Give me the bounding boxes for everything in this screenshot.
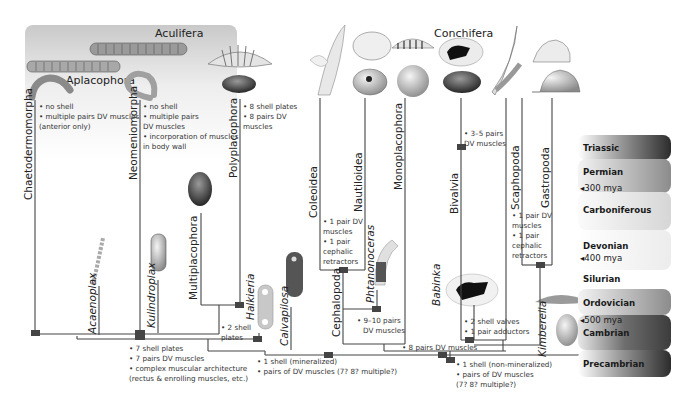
note-line: cephalic — [323, 247, 353, 256]
note-line: retractors — [512, 251, 548, 260]
taxon-label: Babinka — [430, 264, 442, 306]
taxon-label: Nautiloidea — [352, 152, 364, 212]
note-line: DV muscles — [143, 122, 185, 131]
taxon-label: Chaetodermomorpha — [22, 88, 34, 200]
period-label: Devonian — [583, 241, 628, 251]
note-line: • 1 pair adductors — [464, 327, 530, 336]
note-line: • 1 pair DV — [512, 211, 552, 220]
note-line: • 8 pairs DV — [243, 112, 287, 121]
node-marker — [31, 330, 40, 336]
note-line: • 1 shell (mineralized) — [257, 357, 337, 366]
note-line: • no shell — [39, 102, 73, 111]
taxon-label: Gastropoda — [539, 147, 551, 208]
period-label: Ordovician — [583, 298, 635, 308]
node-marker — [372, 306, 381, 312]
period-label: Triassic — [583, 143, 619, 153]
group-label-aculifera: Aculifera — [155, 27, 203, 40]
note-line: • complex muscular architecture — [129, 364, 248, 373]
mollusc-phylogeny-diagram: Aculifera Aplacophora Conchifera — [0, 0, 674, 403]
taxon-label: Kimberella — [536, 301, 548, 357]
note-line: • pairs of DV muscles (7? 8? multiple?) — [257, 367, 397, 376]
note-line: cephalic — [512, 241, 542, 250]
note-line: (7? 8? multiple?) — [456, 380, 516, 389]
worm-illustration — [27, 61, 120, 72]
note-line: • 1 pair DV — [323, 217, 363, 226]
note-line: muscles — [323, 227, 353, 236]
note-line: • multiple pairs — [143, 112, 199, 121]
taxon-label: Acaenoplax — [86, 272, 98, 335]
note-line: • no shell — [143, 102, 177, 111]
taxon-label: Cephalopoda — [330, 268, 342, 337]
note-line: (rectus & enrolling muscles, etc.) — [129, 374, 248, 383]
note-line: • 2 shell — [221, 323, 251, 332]
node-marker — [438, 352, 447, 358]
period-label: Silurian — [583, 274, 620, 284]
note-line: • 8 shell plates — [243, 102, 298, 111]
period-label: Permian — [583, 167, 623, 177]
note-line: • 2 shell valves — [464, 317, 520, 326]
worm-illustration — [90, 43, 187, 55]
note-line: • 8 pairs DV muscles — [402, 343, 478, 352]
note-line: (anterior only) — [39, 122, 91, 131]
period-label: Carboniferous — [583, 205, 651, 215]
mya-marker: ◂400 mya — [580, 253, 622, 263]
note-line: DV muscles — [363, 326, 405, 335]
taxon-label: Bivalvia — [448, 173, 460, 214]
mya-marker: ◂300 mya — [580, 183, 622, 193]
taxon-label: Kulindroplax — [145, 262, 157, 328]
taxon-label: Halkieria — [244, 274, 256, 320]
taxon-label: Coleoidea — [307, 166, 319, 218]
geologic-timescale: Triassic Permian ◂300 mya Carboniferous … — [578, 135, 671, 377]
period-label: Cambrian — [583, 328, 629, 338]
note-line: plates — [221, 333, 243, 342]
mya-marker: ◂500 mya — [580, 315, 622, 325]
note-line: • 1 pair — [323, 237, 350, 246]
note-line: • pairs of DV muscles — [456, 370, 534, 379]
taxon-label: Monoplacophora — [392, 103, 404, 190]
taxon-label: Calvapilosa — [278, 286, 290, 346]
note-line: muscles — [243, 122, 273, 131]
note-line: DV muscles — [464, 139, 506, 148]
note-line: • 1 pair — [512, 231, 539, 240]
note-line: • 9–10 pairs — [357, 316, 401, 325]
taxon-label: Multiplacophora — [187, 216, 199, 300]
note-line: muscles — [512, 221, 542, 230]
note-line: • 3–5 pairs — [464, 129, 503, 138]
note-line: • incorporation of muscles — [143, 132, 239, 141]
note-line: • 7 shell plates — [129, 344, 184, 353]
node-marker — [446, 357, 455, 363]
period-label: Precambrian — [583, 359, 644, 369]
note-line: • multiple pairs DV muscles — [39, 112, 139, 121]
note-line: • 7 pairs DV muscles — [129, 354, 205, 363]
taxon-label: Scaphopoda — [509, 145, 521, 210]
taxon-label: Neomeniomorpha — [127, 86, 139, 180]
node-marker — [135, 330, 145, 340]
node-marker — [253, 336, 262, 342]
note-line: retractors — [323, 257, 359, 266]
node-marker — [235, 302, 244, 308]
node-marker — [536, 262, 545, 268]
note-line: • 1 shell (non-mineralized) — [456, 360, 552, 369]
taxon-label: Phtanonoceras — [364, 224, 376, 303]
note-line: in body wall — [143, 142, 186, 151]
